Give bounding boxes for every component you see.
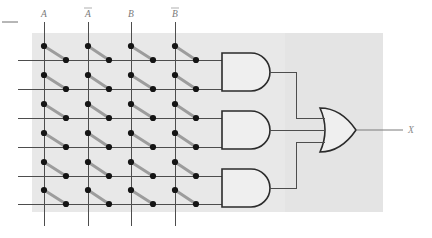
junction-node [128,187,134,193]
junction-node [193,173,199,179]
junction-node [150,173,156,179]
junction-node [106,86,112,92]
input-label-b-bar: B [172,9,178,19]
pla-diagram-figure: A A B B X [0,0,432,238]
junction-node [106,115,112,121]
junction-node [85,43,91,49]
junction-node [193,86,199,92]
junction-node [41,101,47,107]
junction-node [85,101,91,107]
junction-node [172,159,178,165]
junction-node [106,144,112,150]
input-label-a-bar: A [84,9,91,19]
junction-node [41,187,47,193]
junction-node [85,187,91,193]
junction-node [85,159,91,165]
junction-node [63,57,69,63]
junction-node [63,173,69,179]
and-gate-2[interactable] [222,111,270,149]
junction-node [63,86,69,92]
circuit-canvas: A A B B X [0,0,432,238]
junction-node [193,115,199,121]
and-gate-1[interactable] [222,53,270,91]
junction-node [63,201,69,207]
junction-node [172,187,178,193]
junction-node [63,144,69,150]
junction-node [106,173,112,179]
junction-node [128,43,134,49]
junction-node [193,57,199,63]
input-label-group: A A B B [40,8,179,19]
junction-node [172,43,178,49]
junction-node [41,130,47,136]
junction-node [150,57,156,63]
input-label-b: B [128,9,134,19]
and-gate-3[interactable] [222,169,270,207]
junction-node [150,115,156,121]
junction-node [41,159,47,165]
junction-node [106,57,112,63]
output-label-x: X [407,125,415,135]
junction-node [128,72,134,78]
junction-node [172,130,178,136]
junction-node [128,159,134,165]
junction-node [128,101,134,107]
junction-node [150,201,156,207]
junction-node [150,86,156,92]
junction-node [128,130,134,136]
junction-node [193,144,199,150]
junction-node [63,115,69,121]
and-gate-group [222,53,270,207]
junction-node [85,130,91,136]
junction-node [172,72,178,78]
junction-node [172,101,178,107]
junction-node [193,201,199,207]
junction-node [41,43,47,49]
input-label-a: A [40,9,47,19]
junction-node [85,72,91,78]
junction-node [150,144,156,150]
junction-node [106,201,112,207]
junction-node [41,72,47,78]
